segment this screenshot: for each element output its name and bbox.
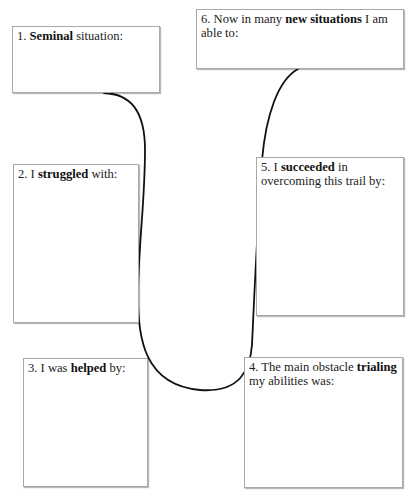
step-label-keyword: new situations (285, 12, 362, 26)
step-label-suffix: with: (88, 167, 117, 181)
step-label-keyword: trialing (357, 360, 397, 374)
step-label-prefix: 2. I (18, 167, 38, 181)
step-label-keyword: Seminal (30, 29, 73, 43)
step-label-prefix: 3. I was (28, 361, 71, 375)
step-box-succeeded[interactable]: 5. I succeeded in overcoming this trail … (256, 157, 404, 316)
step-box-new-situations[interactable]: 6. Now in many new situations I am able … (196, 9, 404, 69)
step-label-prefix: 4. The main obstacle (249, 360, 357, 374)
step-box-seminal-situation[interactable]: 1. Seminal situation: (12, 26, 160, 93)
step-label-suffix: situation: (73, 29, 123, 43)
step-box-helped-by[interactable]: 3. I was helped by: (23, 358, 148, 487)
step-box-struggled-with[interactable]: 2. I struggled with: (13, 164, 139, 323)
step-label-prefix: 1. (17, 29, 30, 43)
step-label-prefix: 6. Now in many (201, 12, 285, 26)
step-label-prefix: 5. I (261, 160, 281, 174)
step-label-keyword: struggled (38, 167, 88, 181)
step-box-main-obstacle[interactable]: 4. The main obstacle trialing my abiliti… (244, 357, 403, 488)
step-label-keyword: helped (71, 361, 107, 375)
step-label-suffix: my abilities was: (249, 374, 334, 388)
step-label-keyword: succeeded (281, 160, 335, 174)
step-label-suffix: by: (106, 361, 125, 375)
